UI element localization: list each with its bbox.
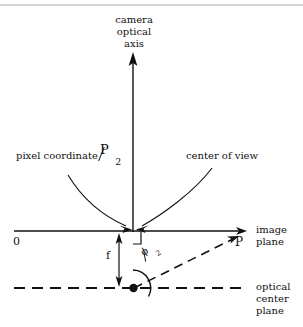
- optical-center-caption-line3: plane: [256, 305, 290, 317]
- angle-arc: [133, 270, 151, 297]
- pixel-coordinate-leader-curve: [68, 175, 126, 226]
- optical-center-caption-line1: optical: [256, 281, 290, 293]
- optical-center-dot: [129, 284, 137, 292]
- optical-axis-caption-line1: camera: [100, 14, 168, 26]
- right-angle-marker: [133, 232, 141, 244]
- point-p-label: P: [235, 235, 243, 249]
- optical-center-caption-line2: center: [256, 293, 290, 305]
- optical-axis-caption-line3: axis: [100, 38, 168, 50]
- optical-axis-caption-line2: optical: [100, 26, 168, 38]
- image-plane-caption-line1: image: [256, 224, 287, 236]
- image-plane-caption: image plane: [256, 224, 287, 248]
- center-of-view-label: center of view: [186, 150, 258, 162]
- pixel-coordinate-label: pixel coordinate: [16, 150, 98, 162]
- origin-label: 0: [13, 236, 20, 249]
- center-of-view-leader-curve: [142, 168, 212, 226]
- pixel-coordinate-fraction: P 2: [100, 146, 120, 164]
- focal-length-label: f: [106, 250, 110, 263]
- camera-geometry-diagram: camera optical axis pixel coordinate P 2…: [0, 0, 303, 327]
- optical-center-plane-caption: optical center plane: [256, 281, 290, 316]
- center-of-view-leader-arrowhead: [136, 226, 149, 234]
- pixel-fraction-denominator: 2: [115, 156, 121, 167]
- pixel-coordinate-leader-arrowhead: [120, 226, 133, 234]
- optical-axis-caption: camera optical axis: [100, 14, 168, 49]
- image-plane-caption-line2: plane: [256, 236, 287, 248]
